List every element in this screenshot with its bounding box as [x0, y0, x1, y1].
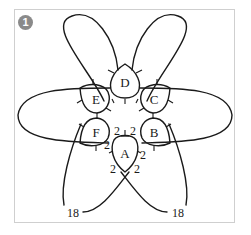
ring-e-label: E [92, 92, 100, 107]
count-a-top-left: 2 [114, 124, 120, 138]
count-a-left-lower: 2 [110, 162, 116, 176]
join-d-c [136, 99, 138, 103]
chain-strand-bottom-left [63, 124, 81, 205]
ring-d-label: D [120, 75, 129, 90]
count-a-left-upper: 2 [104, 138, 110, 152]
chain-end-right-count: 18 [172, 206, 184, 220]
chain-strand-bottom-right-tail [121, 172, 167, 212]
chain-strand-bottom-left-tail [83, 172, 129, 212]
ring-a-label: A [120, 146, 130, 161]
count-a-top-right: 2 [130, 124, 136, 138]
count-a-right-lower: 2 [134, 162, 140, 176]
tatting-diagram: D E C F B A 2 2 2 2 2 2 18 18 [0, 0, 251, 235]
ring-c-label: C [150, 92, 159, 107]
ring-f-label: F [92, 125, 99, 140]
count-a-right-upper: 2 [140, 148, 146, 162]
chain-end-left-count: 18 [67, 206, 79, 220]
ring-b-label: B [150, 125, 159, 140]
chain-strand-bottom-right [169, 124, 187, 205]
join-d-e [112, 99, 114, 103]
